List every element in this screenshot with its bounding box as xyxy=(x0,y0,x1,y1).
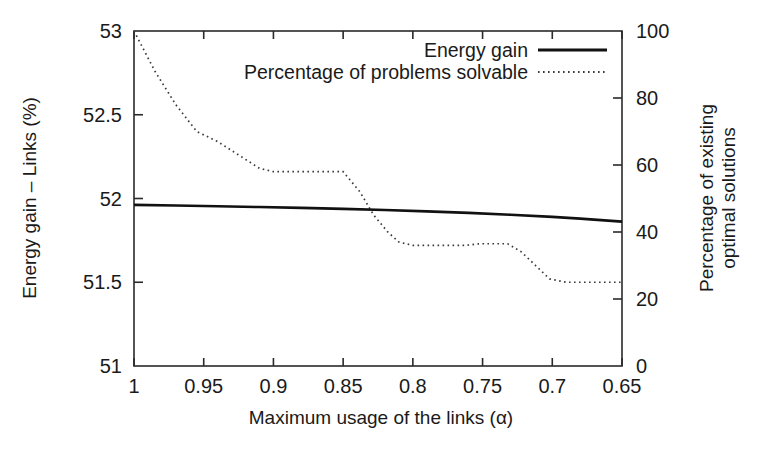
legend: Energy gain Percentage of problems solva… xyxy=(244,39,607,83)
line-chart: 10.950.90.850.80.750.70.65 5151.55252.55… xyxy=(0,0,762,458)
left-y-axis-tick-labels: 5151.55252.553 xyxy=(83,20,122,377)
right-y-tick-label: 60 xyxy=(636,154,658,176)
x-tick-label: 0.85 xyxy=(324,375,363,397)
right-y-axis-ticks xyxy=(613,98,622,299)
legend-item-percentage-of-problems-solvable: Percentage of problems solvable xyxy=(244,61,528,83)
x-tick-label: 0.75 xyxy=(463,375,502,397)
legend-item-energy-gain: Energy gain xyxy=(424,39,528,61)
x-tick-label: 1 xyxy=(128,375,139,397)
right-y-tick-label: 0 xyxy=(636,355,647,377)
left-y-tick-label: 51.5 xyxy=(83,271,122,293)
x-tick-label: 0.95 xyxy=(184,375,223,397)
figure-container: 10.950.90.850.80.750.70.65 5151.55252.55… xyxy=(0,0,762,458)
x-tick-label: 0.9 xyxy=(260,375,288,397)
left-y-tick-label: 52.5 xyxy=(83,104,122,126)
right-y-tick-label: 100 xyxy=(636,20,669,42)
right-y-axis-tick-labels: 020406080100 xyxy=(636,20,669,377)
left-y-tick-label: 53 xyxy=(100,20,122,42)
x-axis-label: Maximum usage of the links (α) xyxy=(249,407,513,428)
left-y-tick-label: 51 xyxy=(100,355,122,377)
left-y-axis-ticks xyxy=(134,115,143,283)
left-y-axis-label: Energy gain – Links (%) xyxy=(19,97,40,299)
right-y-axis-label-line1: Percentage of existing xyxy=(696,104,717,292)
x-axis-tick-labels: 10.950.90.850.80.750.70.65 xyxy=(128,375,641,397)
left-y-tick-label: 52 xyxy=(100,188,122,210)
right-y-tick-label: 80 xyxy=(636,87,658,109)
x-tick-label: 0.65 xyxy=(603,375,642,397)
right-y-tick-label: 20 xyxy=(636,288,658,310)
right-y-tick-label: 40 xyxy=(636,221,658,243)
x-tick-label: 0.7 xyxy=(538,375,566,397)
right-y-axis-label-line2: optimal solutions xyxy=(718,127,739,269)
x-tick-label: 0.8 xyxy=(399,375,427,397)
series-energy-gain xyxy=(134,205,622,222)
